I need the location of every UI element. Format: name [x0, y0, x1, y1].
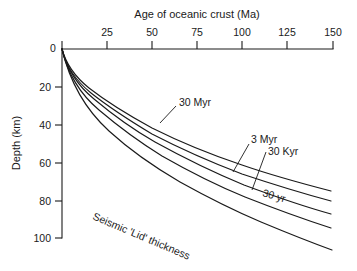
curve-label-3-myr: 3 Myr [251, 133, 278, 145]
x-tick-label-100: 100 [233, 26, 251, 38]
x-tick-label-50: 50 [146, 26, 158, 38]
y-tick-label-80: 80 [39, 195, 51, 207]
y-tick-label-100: 100 [33, 232, 51, 244]
y-axis-title: Depth (km) [10, 116, 22, 170]
x-axis-title: Age of oceanic crust (Ma) [134, 8, 259, 20]
oceanic-crust-depth-chart: Age of oceanic crust (Ma) 0 25 50 75 100… [0, 0, 357, 271]
chart-background [0, 0, 357, 271]
x-tick-label-75: 75 [191, 26, 203, 38]
curve-label-30-kyr: 30 Kyr [268, 145, 299, 157]
y-tick-label-60: 60 [39, 157, 51, 169]
y-tick-label-40: 40 [39, 119, 51, 131]
curve-label-30-myr: 30 Myr [179, 96, 212, 108]
y-tick-label-20: 20 [39, 81, 51, 93]
x-tick-label-0: 0 [50, 42, 56, 54]
x-tick-label-150: 150 [324, 26, 342, 38]
x-tick-label-125: 125 [278, 26, 296, 38]
x-tick-label-25: 25 [101, 26, 113, 38]
